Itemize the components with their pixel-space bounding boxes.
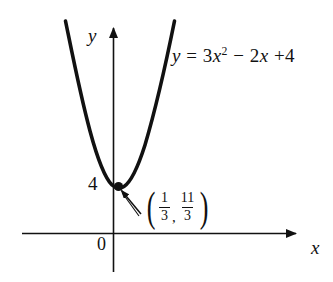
graph-canvas xyxy=(0,0,333,282)
open-paren: ( xyxy=(147,191,156,224)
vertex-x-numerator: 1 xyxy=(159,191,170,206)
vertex-pointer-arrow-tail xyxy=(122,193,139,217)
equation-equals: = xyxy=(186,45,197,66)
vertex-y-denominator: 3 xyxy=(182,207,193,224)
equation-lhs: y xyxy=(172,45,181,66)
close-paren: ) xyxy=(200,191,209,224)
parabola-curve xyxy=(66,21,175,188)
vertex-coordinate-label: ( 1 3 , 11 3 ) xyxy=(144,183,211,231)
y-intercept-label: 4 xyxy=(88,174,98,193)
vertex-point xyxy=(114,182,123,191)
equation-term3: +4 xyxy=(274,45,295,66)
x-axis-label: x xyxy=(311,238,319,257)
vertex-pointer-arrow xyxy=(122,191,142,215)
equation-term2-coefficient: 2 xyxy=(250,45,260,66)
origin-label: 0 xyxy=(97,235,106,253)
vertex-y-fraction: 11 3 xyxy=(179,191,196,223)
vertex-x-denominator: 3 xyxy=(159,207,170,224)
vertex-separator: , xyxy=(172,210,176,231)
parabola-figure: y = 3x2 − 2x +4 y x 0 4 ( 1 3 , 11 3 ) xyxy=(0,0,333,282)
equation-term2-sign: − xyxy=(233,45,244,66)
equation-label: y = 3x2 − 2x +4 xyxy=(172,46,295,65)
vertex-y-numerator: 11 xyxy=(179,191,196,206)
equation-term1-variable: x xyxy=(213,45,222,66)
vertex-x-fraction: 1 3 xyxy=(159,191,170,223)
equation-term2-variable: x xyxy=(260,45,269,66)
equation-term1-coefficient: 3 xyxy=(203,45,213,66)
y-axis-label: y xyxy=(88,26,96,45)
